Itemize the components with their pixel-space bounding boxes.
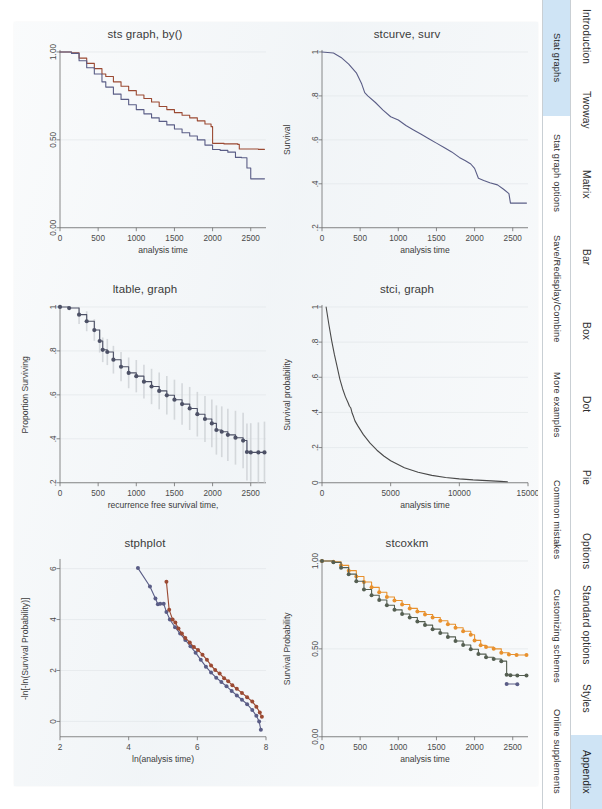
svg-text:2000: 2000 <box>465 743 484 752</box>
svg-text:500: 500 <box>353 234 367 243</box>
tab-introduction[interactable]: Introduction <box>570 0 602 74</box>
svg-text:ln(analysis time): ln(analysis time) <box>132 754 194 764</box>
plot-svg-ltable-graph: .2.4.6.8105001000150020002500recurrence … <box>14 277 276 532</box>
tab-twoway[interactable]: Twoway <box>570 74 602 148</box>
svg-text:1: 1 <box>311 304 320 309</box>
svg-text:.8: .8 <box>311 338 320 345</box>
tab-label: Customizing schemes <box>552 589 562 683</box>
svg-text:10000: 10000 <box>448 488 471 497</box>
chart-cell-ltable-graph: ltable, graph .2.4.6.8105001000150020002… <box>14 277 276 532</box>
svg-text:4: 4 <box>49 617 58 622</box>
tab-stat-graphs[interactable]: Stat graphs <box>542 0 570 116</box>
chart-cell-stci-graph: stci, graph 0.2.4.6.81050001000015000ana… <box>276 277 538 532</box>
svg-text:Proportion Surviving: Proportion Surviving <box>20 356 30 433</box>
tab-matrix[interactable]: Matrix <box>570 147 602 221</box>
svg-text:1: 1 <box>49 304 58 309</box>
svg-text:500: 500 <box>353 743 367 752</box>
section-tab-column: Stat graphsStat graph optionsSave/Redisp… <box>542 0 570 809</box>
svg-text:1500: 1500 <box>427 234 446 243</box>
svg-text:0: 0 <box>311 480 320 485</box>
plot-svg-stcurve-surv: .2.4.6.8105001000150020002500analysis ti… <box>276 22 538 277</box>
svg-text:.4: .4 <box>311 180 320 187</box>
tab-more-examples[interactable]: More examples <box>542 347 570 463</box>
index-tabs: Stat graphsStat graph optionsSave/Redisp… <box>540 0 602 809</box>
svg-text:0: 0 <box>58 488 63 497</box>
svg-text:6: 6 <box>195 743 200 752</box>
svg-text:2500: 2500 <box>504 234 523 243</box>
tab-options[interactable]: Options <box>570 515 602 589</box>
svg-text:1000: 1000 <box>389 743 408 752</box>
svg-text:2500: 2500 <box>242 488 261 497</box>
tab-label: Bar <box>581 249 592 265</box>
tab-label: Pie <box>581 470 592 485</box>
svg-text:.6: .6 <box>311 373 320 380</box>
svg-text:-ln[-ln(Survival Probability)]: -ln[-ln(Survival Probability)] <box>20 598 30 700</box>
tab-online-supplements[interactable]: Online supplements <box>542 693 570 809</box>
chart-cell-stcoxkm: stcoxkm 0.000.501.0005001000150020002500… <box>276 531 538 786</box>
svg-text:.2: .2 <box>311 443 320 450</box>
svg-text:2000: 2000 <box>203 488 222 497</box>
plot-stphplot: 02462468ln(analysis time)-ln[-ln(Surviva… <box>14 531 276 786</box>
plot-stci-graph: 0.2.4.6.81050001000015000analysis timeSu… <box>276 277 538 532</box>
svg-text:0: 0 <box>320 743 325 752</box>
chapter-tab-column: IntroductionTwowayMatrixBarBoxDotPieOpti… <box>570 0 602 809</box>
svg-text:1000: 1000 <box>127 234 146 243</box>
tab-stat-graph-options[interactable]: Stat graph options <box>542 116 570 232</box>
svg-text:1: 1 <box>311 49 320 54</box>
svg-text:.4: .4 <box>49 435 58 442</box>
svg-text:2000: 2000 <box>203 234 222 243</box>
tab-styles[interactable]: Styles <box>570 662 602 736</box>
tab-label: Box <box>581 322 592 340</box>
svg-text:.6: .6 <box>311 136 320 143</box>
svg-text:1000: 1000 <box>127 488 146 497</box>
svg-text:1500: 1500 <box>427 743 446 752</box>
svg-text:2: 2 <box>49 668 58 673</box>
svg-text:Survival: Survival <box>282 125 292 156</box>
svg-text:2500: 2500 <box>504 743 523 752</box>
svg-text:recurrence free survival time,: recurrence free survival time, <box>108 499 219 509</box>
svg-text:.8: .8 <box>49 347 58 354</box>
svg-text:.6: .6 <box>49 391 58 398</box>
tab-label: More examples <box>552 372 562 438</box>
svg-text:15000: 15000 <box>517 488 538 497</box>
svg-text:1.00: 1.00 <box>311 553 320 569</box>
svg-text:2: 2 <box>58 743 63 752</box>
tab-dot[interactable]: Dot <box>570 368 602 442</box>
svg-text:Survival probability: Survival probability <box>282 358 292 431</box>
tab-standard-options[interactable]: Standard options <box>570 588 602 662</box>
tab-label: Dot <box>581 396 592 412</box>
tab-common-mistakes[interactable]: Common mistakes <box>542 462 570 578</box>
plot-stcurve-surv: .2.4.6.8105001000150020002500analysis ti… <box>276 22 538 277</box>
svg-text:1000: 1000 <box>389 234 408 243</box>
plot-svg-sts-graph-by: 0.000.501.0005001000150020002500analysis… <box>14 22 276 277</box>
tab-label: Stat graphs <box>552 33 562 82</box>
svg-text:analysis time: analysis time <box>400 245 450 255</box>
tab-appendix[interactable]: Appendix <box>570 735 602 809</box>
svg-text:5000: 5000 <box>382 488 401 497</box>
svg-text:.2: .2 <box>49 479 58 486</box>
tab-box[interactable]: Box <box>570 294 602 368</box>
svg-text:0: 0 <box>320 234 325 243</box>
tab-label: Common mistakes <box>552 480 562 559</box>
svg-text:500: 500 <box>91 234 105 243</box>
svg-text:0.50: 0.50 <box>311 641 320 657</box>
page-root: sts graph, by() 0.000.501.00050010001500… <box>0 0 602 809</box>
tab-label: Save/Redisplay/Combine <box>552 235 562 343</box>
svg-text:2000: 2000 <box>465 234 484 243</box>
plot-svg-stci-graph: 0.2.4.6.81050001000015000analysis timeSu… <box>276 277 538 532</box>
tab-pie[interactable]: Pie <box>570 441 602 515</box>
tab-label: Stat graph options <box>552 134 562 212</box>
chart-cell-stcurve-surv: stcurve, surv .2.4.6.8105001000150020002… <box>276 22 538 277</box>
svg-text:analysis time: analysis time <box>138 245 188 255</box>
svg-text:analysis time: analysis time <box>400 754 450 764</box>
tab-customizing-schemes[interactable]: Customizing schemes <box>542 578 570 694</box>
svg-text:.8: .8 <box>311 92 320 99</box>
chart-grid: sts graph, by() 0.000.501.00050010001500… <box>14 22 538 786</box>
tab-label: Twoway <box>581 91 592 129</box>
tab-label: Appendix <box>581 750 592 794</box>
svg-text:0: 0 <box>49 719 58 724</box>
svg-text:2500: 2500 <box>242 234 261 243</box>
svg-text:8: 8 <box>264 743 269 752</box>
tab-save-redisplay-combine[interactable]: Save/Redisplay/Combine <box>542 231 570 347</box>
tab-bar[interactable]: Bar <box>570 221 602 295</box>
